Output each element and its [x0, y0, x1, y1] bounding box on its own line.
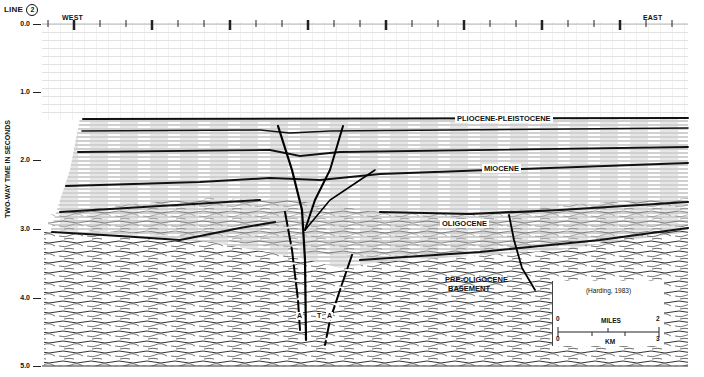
scale-km-min: 0 [556, 335, 560, 342]
west-label: WEST [62, 14, 83, 21]
scale-km-max: 3 [656, 335, 660, 342]
east-label: EAST [643, 14, 662, 21]
y-tick-label: 4.0 [6, 294, 30, 301]
y-tick-mark [33, 92, 41, 93]
unit-label-pre-oligocene: PRE-OLIGOCENE [443, 275, 510, 284]
y-tick-mark [33, 160, 41, 161]
shallow-grid-zone [42, 22, 688, 120]
line-title: LINE 2 [4, 4, 38, 16]
unit-label-pliocene-pleistocene: PLIOCENE-PLEISTOCENE [455, 114, 553, 123]
scale-legend: (Harding, 1983) MILES 0 2 0 KM 3 [552, 281, 664, 346]
scale-miles-min: 0 [556, 315, 560, 322]
scale-km-label: KM [605, 338, 615, 345]
fault-label-toward: T [316, 312, 322, 320]
fault-label-away: A [296, 312, 303, 320]
y-tick-mark [33, 24, 41, 25]
unit-label-miocene: MIOCENE [482, 164, 521, 173]
y-tick-label: 1.0 [6, 88, 30, 95]
y-tick-mark [33, 366, 41, 367]
unit-label-oligocene: OLIGOCENE [440, 219, 489, 228]
scale-miles-max: 2 [656, 315, 660, 322]
y-tick-label: 0.0 [6, 20, 30, 27]
horizon-pliocene-top [83, 118, 688, 119]
unit-label-basement: BASEMENT [446, 284, 492, 293]
y-tick-mark [33, 298, 41, 299]
y-tick-label: 3.0 [6, 225, 30, 232]
y-tick-mark [33, 229, 41, 230]
line-number-badge: 2 [26, 4, 38, 16]
y-tick-label: 5.0 [6, 362, 30, 369]
y-tick-label: 2.0 [6, 156, 30, 163]
line-label: LINE [4, 5, 23, 14]
y-axis-title: TWO-WAY TIME IN SECONDS [4, 120, 11, 218]
fault-label-away-2: A [326, 312, 333, 320]
citation: (Harding, 1983) [553, 287, 664, 294]
